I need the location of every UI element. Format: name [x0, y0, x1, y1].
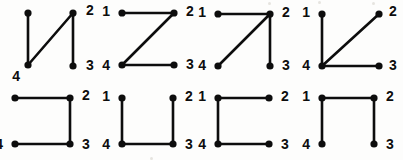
graph-canvas: 1234 — [196, 0, 291, 80]
graph-vertex-label: 2 — [82, 87, 90, 103]
graph-vertex-dot — [169, 94, 176, 101]
graph-vertex-label: 4 — [302, 57, 310, 73]
graph-vertex-dot — [66, 94, 73, 101]
graph-vertex-dot — [170, 61, 177, 68]
graph-vertex-dot — [69, 62, 76, 69]
graph-vertex-label: 2 — [281, 88, 289, 104]
graph-diagram: 1234 — [100, 0, 195, 80]
graph-canvas: 234 — [0, 0, 95, 80]
graph-vertex-label: 4 — [102, 136, 110, 152]
graph-diagram: 1234 — [294, 0, 394, 80]
graph-vertex-dot — [118, 94, 125, 101]
graph-vertex-label: 1 — [198, 88, 206, 104]
graph-vertex-label: 2 — [282, 4, 290, 20]
graph-diagram: 1234 — [294, 82, 394, 160]
graph-vertex-dot — [318, 62, 325, 69]
graph-edge — [322, 14, 379, 66]
graph-vertex-dot — [266, 62, 273, 69]
graph-vertex-label: 4 — [198, 136, 206, 152]
graph-vertex-dot — [118, 61, 125, 68]
scan-artifact-speck — [372, 2, 375, 5]
graph-vertex-label: 3 — [281, 136, 289, 152]
graph-vertex-label: 3 — [389, 57, 397, 73]
graph-vertex-dot — [375, 10, 382, 17]
graph-canvas: 1234 — [196, 82, 291, 160]
graph-vertex-dot — [170, 9, 177, 16]
graph-vertex-label: 2 — [86, 2, 94, 18]
graph-vertex-label: 1 — [198, 4, 206, 20]
graph-vertex-label: 3 — [386, 136, 394, 152]
graph-vertex-dot — [118, 9, 125, 16]
scan-artifact-speck — [150, 157, 153, 160]
graph-canvas: 1234 — [100, 82, 195, 160]
graph-vertex-label: 1 — [102, 3, 110, 19]
graph-canvas: 1234 — [294, 82, 394, 160]
graph-vertex-dot — [24, 9, 31, 16]
graph-vertex-label: 2 — [186, 3, 194, 19]
graph-diagram: 1234 — [196, 82, 291, 160]
graph-vertex-dot — [11, 94, 18, 101]
graph-vertex-dot — [265, 140, 272, 147]
graph-vertex-dot — [318, 10, 325, 17]
graph-vertex-label: 3 — [185, 136, 193, 152]
graph-vertex-dot — [370, 140, 377, 147]
graph-diagram: 234 — [0, 82, 95, 160]
graph-vertex-dot — [318, 94, 325, 101]
graph-vertex-dot — [318, 140, 325, 147]
scan-artifact-speck — [268, 2, 271, 5]
graph-vertex-dot — [24, 61, 31, 68]
graph-vertex-dot — [375, 62, 382, 69]
graph-canvas: 1234 — [100, 0, 195, 80]
graph-vertex-label: 2 — [185, 88, 193, 104]
graph-vertex-label: 3 — [186, 56, 194, 72]
graph-vertex-label: 2 — [386, 88, 394, 104]
graph-vertex-dot — [66, 140, 73, 147]
graph-vertex-dot — [69, 9, 76, 16]
graph-edge — [28, 13, 73, 65]
graph-diagram: 234 — [0, 0, 95, 80]
graph-vertex-dot — [214, 140, 221, 147]
graph-vertex-label: 4 — [302, 136, 310, 152]
graph-canvas: 1234 — [294, 0, 394, 80]
graph-vertex-label: 1 — [102, 88, 110, 104]
graph-edge — [122, 13, 174, 65]
graph-vertex-dot — [370, 94, 377, 101]
graph-vertex-dot — [265, 94, 272, 101]
graph-vertex-label: 1 — [302, 4, 310, 20]
graph-vertex-label: 4 — [102, 57, 110, 73]
graph-vertex-label: 4 — [198, 57, 206, 73]
graph-vertex-dot — [169, 140, 176, 147]
scan-artifact-speck — [318, 1, 321, 4]
graph-vertex-dot — [214, 62, 221, 69]
graph-vertex-label: 2 — [389, 3, 397, 19]
graph-vertex-dot — [266, 10, 273, 17]
graph-vertex-dot — [11, 140, 18, 147]
graph-vertex-dot — [118, 140, 125, 147]
graph-vertex-label: 3 — [86, 57, 94, 73]
graph-vertex-label: 1 — [302, 88, 310, 104]
graph-vertex-dot — [214, 10, 221, 17]
graph-diagram: 1234 — [100, 82, 195, 160]
graph-vertex-label: 3 — [82, 136, 90, 152]
graph-vertex-label: 3 — [282, 57, 290, 73]
graph-canvas: 234 — [0, 82, 95, 160]
graph-vertex-dot — [214, 94, 221, 101]
graph-vertex-label: 4 — [0, 136, 3, 152]
graph-edge — [218, 14, 270, 66]
graph-diagram: 1234 — [196, 0, 291, 80]
graph-figure-sheet: 234123412341234234123412341234 — [0, 0, 403, 160]
